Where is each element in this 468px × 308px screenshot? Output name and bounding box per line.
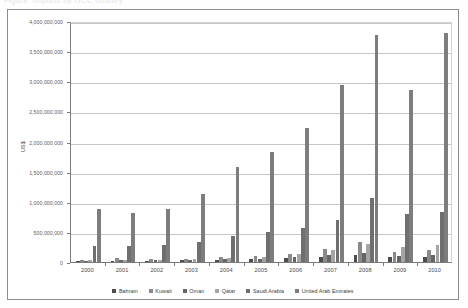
legend-label: Saudi Arabia	[253, 288, 284, 294]
bar	[270, 152, 274, 262]
y-tick-label: 1,000,000,000	[29, 200, 63, 206]
legend-swatch-icon	[295, 289, 299, 293]
x-tick-mark	[244, 263, 245, 266]
y-tick-label: 3,500,000,000	[29, 49, 63, 55]
chart-page: Figure: Imports by GCC country US$ 0500,…	[0, 0, 468, 308]
bar	[166, 209, 170, 262]
bar	[305, 128, 309, 262]
y-tick-label: 4,000,000,000	[29, 19, 63, 25]
legend-item[interactable]: United Arab Emirates	[295, 288, 353, 294]
legend-item[interactable]: Kuwait	[149, 288, 172, 294]
y-tick-mark	[67, 203, 70, 204]
x-tick-mark	[278, 263, 279, 266]
bar	[340, 85, 344, 262]
x-tick-mark	[139, 263, 140, 266]
x-tick-label: 2005	[255, 267, 268, 273]
caption-text: Figure: Imports by GCC country	[4, 0, 123, 5]
bars-layer	[71, 23, 451, 262]
y-tick-mark	[67, 143, 70, 144]
legend-label: Kuwait	[155, 288, 171, 294]
y-axis-title: US$	[20, 141, 26, 152]
y-tick-mark	[67, 263, 70, 264]
bar	[375, 35, 379, 262]
x-tick-label: 2010	[428, 267, 441, 273]
legend-swatch-icon	[149, 289, 153, 293]
legend-item[interactable]: Qatar	[215, 288, 235, 294]
x-tick-mark	[174, 263, 175, 266]
x-tick-label: 2001	[116, 267, 129, 273]
x-tick-label: 2000	[81, 267, 94, 273]
legend-label: Bahrain	[119, 288, 138, 294]
x-tick-label: 2006	[289, 267, 302, 273]
y-tick-label: 1,500,000,000	[29, 170, 63, 176]
cropped-caption: Figure: Imports by GCC country	[0, 0, 468, 9]
legend-label: United Arab Emirates	[302, 288, 354, 294]
legend-item[interactable]: Saudi Arabia	[246, 288, 284, 294]
y-tick-label: 2,000,000,000	[29, 140, 63, 146]
y-tick-mark	[67, 112, 70, 113]
y-tick-mark	[67, 233, 70, 234]
y-tick-mark	[67, 52, 70, 53]
y-tick-mark	[67, 82, 70, 83]
legend-item[interactable]: Bahrain	[112, 288, 137, 294]
x-tick-mark	[313, 263, 314, 266]
x-tick-mark	[383, 263, 384, 266]
x-tick-mark	[348, 263, 349, 266]
y-tick-label: 0	[60, 260, 63, 266]
x-tick-mark	[105, 263, 106, 266]
x-tick-label: 2002	[150, 267, 163, 273]
x-tick-label: 2009	[393, 267, 406, 273]
legend-swatch-icon	[246, 289, 250, 293]
y-tick-mark	[67, 173, 70, 174]
x-tick-label: 2007	[324, 267, 337, 273]
y-tick-label: 2,500,000,000	[29, 109, 63, 115]
y-tick-label: 3,000,000,000	[29, 79, 63, 85]
bar	[236, 167, 240, 262]
legend-label: Oman	[189, 288, 204, 294]
x-tick-mark	[209, 263, 210, 266]
legend-label: Qatar	[222, 288, 236, 294]
y-tick-label: 500,000,000	[34, 230, 63, 236]
bar	[131, 213, 135, 262]
bar	[444, 33, 448, 262]
legend-swatch-icon	[183, 289, 187, 293]
plot-area	[70, 22, 452, 263]
legend-item[interactable]: Oman	[183, 288, 204, 294]
x-tick-label: 2004	[220, 267, 233, 273]
x-tick-label: 2003	[185, 267, 198, 273]
legend-swatch-icon	[112, 289, 116, 293]
figure-box: US$ 0500,000,0001,000,000,0001,500,000,0…	[7, 9, 459, 300]
legend-swatch-icon	[215, 289, 219, 293]
bar	[201, 194, 205, 262]
x-tick-mark	[417, 263, 418, 266]
y-tick-mark	[67, 22, 70, 23]
x-tick-label: 2008	[359, 267, 372, 273]
bar	[97, 209, 101, 262]
bar	[409, 90, 413, 262]
chart-legend: BahrainKuwaitOmanQatarSaudi ArabiaUnited…	[8, 288, 458, 294]
